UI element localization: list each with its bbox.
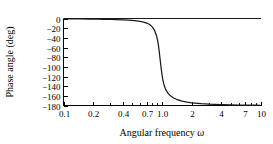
- x-tick-label: 2: [190, 109, 195, 119]
- x-tick-label: 1.0: [157, 109, 169, 119]
- y-tick-label: −40: [46, 34, 61, 44]
- y-axis-title: Phase angle (deg): [4, 26, 16, 97]
- y-tick-label: −140: [42, 82, 61, 92]
- phase-response-curve: [64, 19, 261, 105]
- y-tick-label: −100: [42, 63, 61, 73]
- y-axis-ticks: [64, 20, 68, 107]
- axis-frame: [64, 19, 261, 106]
- y-axis-title-text: Phase angle (deg): [4, 26, 16, 97]
- bode-phase-plot-figure: 0−20−40−60−80−100−120−140−160−180 0.10.2…: [0, 0, 273, 144]
- x-tick-label: 10: [257, 109, 267, 119]
- x-tick-label: 0.2: [88, 109, 99, 119]
- y-tick-label: −20: [46, 24, 61, 34]
- chart-canvas: 0−20−40−60−80−100−120−140−160−180 0.10.2…: [0, 0, 273, 144]
- y-axis-tick-labels: 0−20−40−60−80−100−120−140−160−180: [42, 15, 61, 112]
- x-tick-label: 0.4: [118, 109, 130, 119]
- x-tick-label: 7: [243, 109, 248, 119]
- y-tick-label: −80: [46, 53, 61, 63]
- x-axis-tick-labels: 0.10.20.40.71.024710: [59, 109, 267, 119]
- x-axis-title: Angular frequency ω: [120, 127, 205, 138]
- x-tick-label: 0.7: [142, 109, 154, 119]
- x-tick-label: 4: [219, 109, 224, 119]
- omega-symbol: ω: [197, 127, 204, 138]
- x-tick-label: 0.1: [59, 109, 70, 119]
- y-tick-label: −160: [42, 92, 61, 102]
- svg-text:Angular frequency ω: Angular frequency ω: [120, 127, 205, 138]
- x-axis-title-text: Angular frequency: [120, 127, 195, 138]
